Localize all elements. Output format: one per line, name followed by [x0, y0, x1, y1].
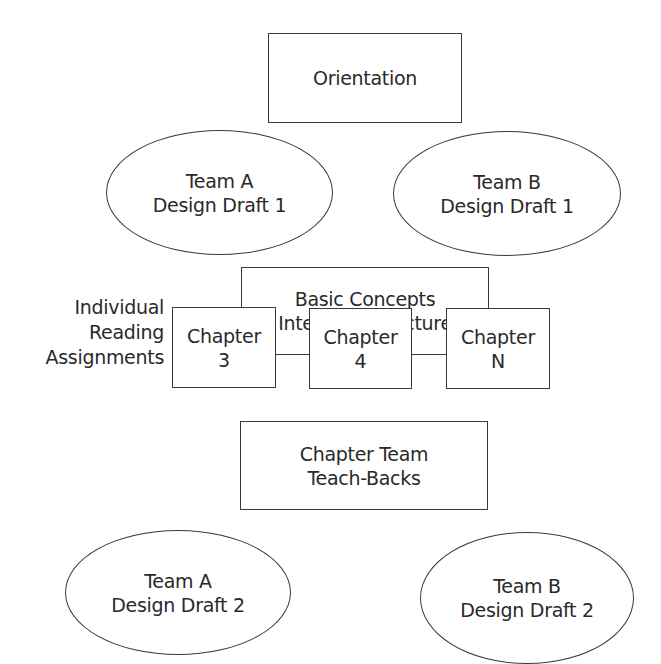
chapter-n-label: Chapter	[461, 325, 535, 349]
team-a-draft-1-title: Design Draft 1	[153, 193, 286, 217]
chapter-4-label: Chapter	[324, 325, 398, 349]
reading-assignments-label: Individual Reading Assignments	[46, 295, 164, 370]
team-b-draft-2-team: Team B	[493, 574, 561, 598]
teach-backs-line-2: Teach-Backs	[307, 466, 420, 490]
team-b-draft-2-title: Design Draft 2	[460, 598, 593, 622]
team-a-draft-1-ellipse: Team A Design Draft 1	[106, 130, 333, 255]
chapter-n-number: N	[491, 349, 505, 373]
orientation-box: Orientation	[268, 33, 462, 123]
team-a-draft-2-team: Team A	[144, 569, 211, 593]
team-a-draft-2-ellipse: Team A Design Draft 2	[65, 530, 291, 655]
teach-backs-line-1: Chapter Team	[300, 442, 429, 466]
team-a-draft-1-team: Team A	[186, 169, 253, 193]
team-b-draft-1-team: Team B	[473, 170, 541, 194]
team-b-draft-1-title: Design Draft 1	[440, 194, 573, 218]
team-b-draft-1-ellipse: Team B Design Draft 1	[393, 131, 621, 256]
orientation-label: Orientation	[313, 66, 417, 90]
chapter-n-box: Chapter N	[446, 308, 550, 389]
teach-backs-box: Chapter Team Teach-Backs	[240, 421, 488, 510]
team-a-draft-2-title: Design Draft 2	[111, 593, 244, 617]
chapter-3-box: Chapter 3	[172, 307, 276, 388]
team-b-draft-2-ellipse: Team B Design Draft 2	[420, 532, 634, 664]
chapter-4-number: 4	[355, 349, 367, 373]
chapter-4-box: Chapter 4	[309, 308, 412, 389]
reading-label-line-1: Individual	[46, 295, 164, 320]
reading-label-line-2: Reading	[46, 320, 164, 345]
reading-label-line-3: Assignments	[46, 345, 164, 370]
chapter-3-label: Chapter	[187, 324, 261, 348]
chapter-3-number: 3	[218, 348, 230, 372]
